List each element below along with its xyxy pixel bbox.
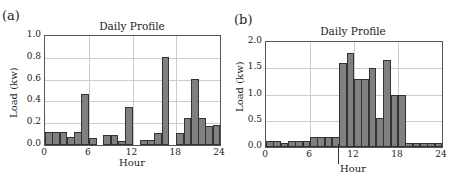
x-tick-label: 6 (299, 149, 319, 159)
grid-line-h (45, 58, 220, 59)
x-axis-label: Hour (44, 157, 220, 168)
bar (435, 143, 443, 147)
x-tick-label: 24 (209, 147, 229, 157)
bar (162, 57, 170, 145)
x-axis-label: Hour (265, 163, 441, 174)
chart-b: (b) Daily Profile Hour Load (kw) 0612182… (228, 0, 456, 184)
y-tick-label: 0.6 (17, 73, 41, 83)
bar (125, 107, 133, 145)
hour-marker (338, 144, 339, 164)
x-tick-label: 18 (165, 147, 185, 157)
x-tick-label: 6 (78, 147, 98, 157)
chart-title: Daily Profile (44, 20, 220, 32)
bar (81, 94, 89, 145)
panel-label: (a) (2, 8, 20, 23)
y-tick-label: 0.2 (17, 116, 41, 126)
x-tick-label: 12 (343, 149, 363, 159)
grid-line-v (176, 36, 177, 145)
y-tick-label: 1.5 (238, 61, 262, 71)
y-tick-label: 0.8 (17, 51, 41, 61)
y-tick-label: 1.0 (238, 88, 262, 98)
x-tick-label: 18 (387, 149, 407, 159)
plot-area (44, 35, 221, 146)
x-tick-label: 0 (255, 149, 275, 159)
y-tick-label: 0.5 (238, 114, 262, 124)
y-tick-label: 2.0 (238, 35, 262, 45)
x-tick-label: 24 (431, 149, 451, 159)
x-tick-label: 12 (122, 147, 142, 157)
x-tick-label: 0 (34, 147, 54, 157)
y-tick-label: 0.4 (17, 94, 41, 104)
y-tick-label: 0.0 (238, 140, 262, 150)
panel-label: (b) (234, 12, 252, 27)
bar (213, 125, 221, 145)
plot-area (265, 41, 443, 148)
bar (89, 138, 97, 145)
bar (398, 95, 406, 148)
y-tick-label: 0.0 (17, 138, 41, 148)
y-tick-label: 1.0 (17, 29, 41, 39)
chart-a: (a) Daily Profile Hour Load (kw) 0612182… (0, 0, 228, 184)
chart-title: Daily Profile (265, 25, 441, 37)
